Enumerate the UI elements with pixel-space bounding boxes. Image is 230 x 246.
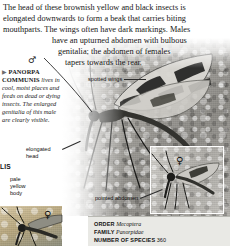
leader-line-spotted-wings: [124, 79, 146, 80]
male-symbol-icon: ♂: [28, 56, 36, 65]
infobox-row-family: FAMILY Panorpidae: [94, 228, 230, 236]
label-spotted-wings: spotted wings: [88, 76, 122, 83]
label-pointed-abdomen: pointed abdomen: [95, 195, 138, 202]
encyclopedia-page: The head of these brownish yellow and bl…: [0, 0, 230, 246]
infobox-row-order: ORDER Mecoptera: [94, 220, 230, 228]
infobox-key-species-count: NUMBER OF SPECIES: [94, 237, 155, 243]
caption-species-name: PANORPA COMMUNIS: [2, 68, 40, 83]
female-symbol-inset-icon: ♀: [176, 156, 183, 166]
female-symbol-strip-icon: ♀: [44, 210, 51, 220]
label-elongated-head: elongated head: [26, 146, 62, 160]
caption-bullet-icon: ▶: [2, 69, 7, 75]
label-pale-yellow-body: pale yellow body: [10, 176, 36, 198]
infobox-value-family: Panorpidae: [116, 229, 143, 235]
infobox-value-order: Mecoptera: [116, 221, 141, 227]
infobox-row-species-count: NUMBER OF SPECIES 360: [94, 236, 230, 244]
infobox-value-species-count: 360: [157, 237, 166, 243]
infobox-key-family: FAMILY: [94, 229, 115, 235]
cut-off-species-text: LIS: [0, 163, 11, 170]
taxonomy-infobox: ORDER Mecoptera FAMILY Panorpidae NUMBER…: [88, 216, 230, 246]
infobox-key-order: ORDER: [94, 221, 115, 227]
caption-text: lives in cool, moist places and feeds on…: [2, 76, 60, 123]
species-caption: ▶ PANORPA COMMUNIS lives in cool, moist …: [2, 68, 64, 124]
